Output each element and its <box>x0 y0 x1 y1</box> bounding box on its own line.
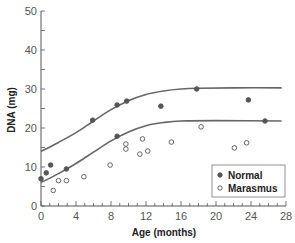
y-tick-label: 50 <box>25 5 37 17</box>
marasmus-point <box>232 146 237 151</box>
marasmus-point <box>51 188 56 193</box>
x-tick-label: 8 <box>108 210 114 222</box>
y-tick-label: 30 <box>25 83 37 95</box>
x-tick-label: 28 <box>280 210 292 222</box>
y-tick-label: 0 <box>31 200 37 212</box>
legend-marasmus-marker-icon <box>218 186 222 190</box>
normal-point <box>115 134 120 139</box>
x-axis: 0481216202428 <box>38 201 292 222</box>
y-tick-label: 20 <box>25 122 37 134</box>
x-tick-label: 0 <box>38 210 44 222</box>
y-axis-title: DNA (mg) <box>6 87 17 133</box>
legend: Normal Marasmus <box>212 165 285 197</box>
marasmus-point <box>140 137 145 142</box>
marasmus-point <box>145 149 150 154</box>
dna-age-chart: 01020304050 0481216202428 DNA (mg) Age (… <box>0 0 295 243</box>
x-tick-label: 24 <box>245 210 257 222</box>
normal-point <box>39 176 44 181</box>
normal-point <box>159 104 164 109</box>
y-tick-label: 40 <box>25 44 37 56</box>
marasmus-point <box>199 125 204 130</box>
marasmus-point <box>82 174 87 179</box>
marasmus-point <box>244 141 249 146</box>
y-tick-label: 10 <box>25 161 37 173</box>
normal-point <box>90 118 95 123</box>
x-tick-label: 20 <box>210 210 222 222</box>
x-axis-title: Age (months) <box>132 227 196 238</box>
normal-point <box>263 119 268 124</box>
x-tick-label: 4 <box>73 210 79 222</box>
legend-normal-marker-icon <box>218 173 222 177</box>
normal-point <box>115 103 120 108</box>
legend-normal-label: Normal <box>228 170 263 181</box>
marasmus-point <box>124 147 129 152</box>
normal-point <box>64 167 69 172</box>
marasmus-point <box>108 163 113 168</box>
x-tick-label: 12 <box>140 210 152 222</box>
legend-marasmus-label: Marasmus <box>228 183 278 194</box>
x-tick-label: 16 <box>175 210 187 222</box>
marasmus-point <box>169 140 174 145</box>
marasmus-point <box>138 152 143 157</box>
marasmus-point <box>124 142 129 147</box>
normal-point <box>194 87 199 92</box>
marasmus-point <box>64 178 69 183</box>
normal-point <box>246 98 251 103</box>
marasmus-point <box>56 178 61 183</box>
normal-point <box>124 99 129 104</box>
normal-point <box>44 171 49 176</box>
normal-point <box>48 163 53 168</box>
